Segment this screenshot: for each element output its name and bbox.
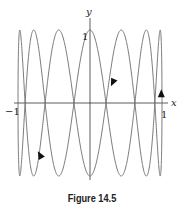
- y-max-tick-label: 1: [82, 31, 88, 42]
- x-max-tick-label: 1: [161, 109, 167, 120]
- x-min-tick-label: −1: [5, 106, 20, 117]
- figure-caption: Figure 14.5: [7, 193, 176, 204]
- axes: [14, 18, 168, 180]
- x-axis-label: x: [171, 97, 177, 108]
- arrowhead-icon: [158, 89, 165, 97]
- lissajous-plot: x y −1 1 1: [0, 0, 184, 213]
- y-axis-label: y: [85, 6, 92, 17]
